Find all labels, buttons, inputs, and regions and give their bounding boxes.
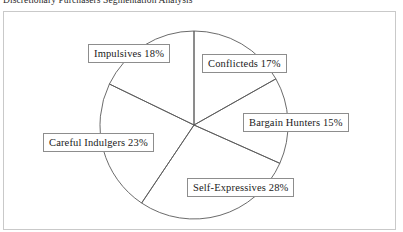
pie-label-careful-indulgers[interactable]: Careful Indulgers 23% — [43, 133, 154, 152]
pie-label-self-expressives[interactable]: Self-Expressives 28% — [187, 178, 294, 197]
pie-label-conflicteds[interactable]: Conflicteds 17% — [202, 54, 287, 73]
pie-slice-conflicteds[interactable] — [194, 31, 276, 125]
chart-frame: Impulsives 18% Conflicteds 17% Bargain H… — [3, 11, 396, 230]
page-title: Discretionary Purchasers Segmentation An… — [3, 0, 193, 5]
pie-label-impulsives[interactable]: Impulsives 18% — [88, 44, 170, 63]
pie-label-bargain-hunters[interactable]: Bargain Hunters 15% — [243, 113, 349, 132]
